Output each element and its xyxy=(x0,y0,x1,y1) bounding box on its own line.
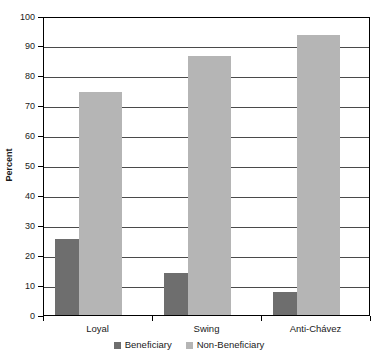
y-tick-label: 20 xyxy=(25,252,35,261)
bar xyxy=(273,292,297,315)
legend-swatch-icon xyxy=(186,342,193,349)
y-tick-label: 70 xyxy=(25,102,35,111)
x-tick-mark xyxy=(261,316,262,321)
y-tick-label: 80 xyxy=(25,72,35,81)
y-tick-label: 40 xyxy=(25,192,35,201)
bar xyxy=(55,239,79,315)
bar xyxy=(164,273,188,315)
bar xyxy=(188,56,231,315)
legend-swatch-icon xyxy=(114,342,121,349)
bar xyxy=(79,92,122,315)
x-tick-label: Swing xyxy=(152,323,261,334)
y-tick-label: 10 xyxy=(25,282,35,291)
y-axis: 0102030405060708090100 xyxy=(0,0,43,360)
y-tick-label: 90 xyxy=(25,42,35,51)
x-tick-mark xyxy=(43,316,44,321)
y-tick-label: 50 xyxy=(25,162,35,171)
y-tick-label: 100 xyxy=(20,13,35,22)
legend-label: Non-Beneficiary xyxy=(197,340,265,350)
x-tick-label: Loyal xyxy=(43,323,152,334)
chart-legend: BeneficiaryNon-Beneficiary xyxy=(0,340,378,350)
bar xyxy=(297,35,340,315)
legend-item[interactable]: Non-Beneficiary xyxy=(186,340,265,350)
y-tick-label: 30 xyxy=(25,222,35,231)
y-tick-label: 60 xyxy=(25,132,35,141)
legend-label: Beneficiary xyxy=(125,340,172,350)
x-tick-mark xyxy=(370,316,371,321)
bar-chart: Percent 0102030405060708090100 LoyalSwin… xyxy=(0,0,378,360)
y-tick-label: 0 xyxy=(30,312,35,321)
legend-item[interactable]: Beneficiary xyxy=(114,340,172,350)
x-tick-mark xyxy=(152,316,153,321)
plot-area xyxy=(43,17,370,316)
x-tick-label: Anti-Chávez xyxy=(261,323,370,334)
